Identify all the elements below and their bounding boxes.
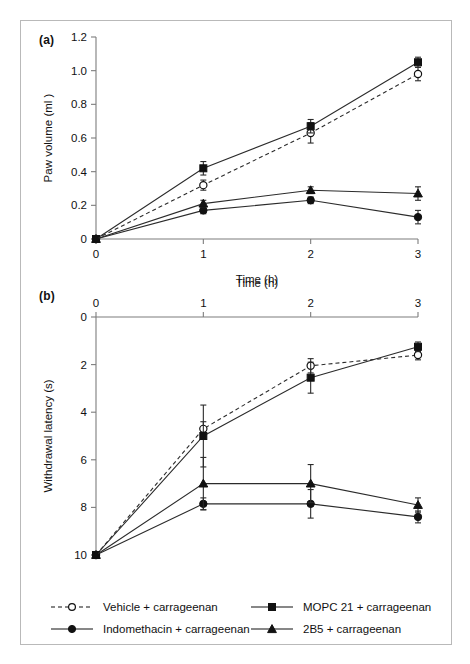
legend-label-vehicle: Vehicle + carrageenan: [103, 601, 218, 613]
withdrawal-latency-chart: 01230246810Withdrawal latency (s)Time (h…: [21, 279, 451, 579]
x-tick-label: 2: [307, 297, 313, 309]
legend-item-2b5: 2B5 + carrageenan: [249, 618, 449, 640]
series-path: [96, 200, 418, 239]
series-path: [96, 74, 418, 239]
legend-label-indomethacin: Indomethacin + carrageenan: [103, 623, 250, 635]
paw-volume-chart: 012300.20.40.60.81.01.2Paw volume (ml )T…: [21, 21, 451, 321]
legend-label-mopc21: MOPC 21 + carrageenan: [303, 601, 431, 613]
chart-panel-b: (b) 01230246810Withdrawal latency (s)Tim…: [21, 279, 451, 579]
y-tick-label: 1.2: [71, 31, 87, 43]
y-axis-title: Paw volume (ml ): [42, 93, 54, 182]
y-tick-label: 0.4: [71, 166, 88, 178]
x-tick-label: 0: [93, 248, 99, 260]
series-path: [96, 62, 418, 239]
x-tick-label: 3: [415, 297, 421, 309]
series-filled-circle: [92, 197, 421, 243]
y-tick-label: 0.8: [71, 98, 87, 110]
legend-item-vehicle: Vehicle + carrageenan: [49, 596, 249, 618]
data-point-open-circle: [200, 182, 207, 189]
series-path: [96, 347, 418, 555]
data-point-filled-square: [200, 165, 207, 172]
data-point-filled-circle: [414, 213, 421, 220]
series-path: [96, 355, 418, 555]
x-axis-title: Time (h): [236, 279, 279, 289]
legend-marker-filled-triangle-solid: [249, 620, 295, 638]
data-point-filled-circle: [414, 513, 421, 520]
data-point-filled-square: [415, 343, 422, 350]
y-tick-label: 6: [81, 454, 87, 466]
data-point-filled-circle: [307, 197, 314, 204]
y-axis-title: Withdrawal latency (s): [42, 379, 54, 492]
data-point-open-circle: [414, 351, 421, 358]
legend-item-indomethacin: Indomethacin + carrageenan: [49, 618, 249, 640]
legend-item-mopc21: MOPC 21 + carrageenan: [249, 596, 449, 618]
panel-b-tag: (b): [39, 289, 55, 303]
series-open-circle: [92, 350, 421, 558]
series-path: [96, 484, 418, 555]
series-path: [96, 190, 418, 239]
series-filled-square: [93, 342, 422, 559]
y-tick-label: 0.2: [71, 199, 87, 211]
data-point-filled-triangle: [306, 186, 315, 194]
data-point-filled-square: [307, 123, 314, 130]
y-tick-label: 0.6: [71, 132, 87, 144]
y-tick-label: 10: [74, 549, 87, 561]
figure-legend: Vehicle + carrageenan Indomethacin + car…: [31, 594, 443, 642]
data-point-filled-square: [415, 59, 422, 66]
chart-panel-a: (a) 012300.20.40.60.81.01.2Paw volume (m…: [21, 21, 451, 321]
y-tick-label: 0: [81, 311, 87, 323]
x-tick-label: 3: [415, 248, 421, 260]
legend-marker-open-circle-dashed: [49, 598, 95, 616]
y-tick-label: 4: [81, 406, 88, 418]
x-tick-label: 0: [93, 297, 99, 309]
series-filled-triangle: [92, 186, 423, 243]
legend-marker-filled-square-solid: [249, 598, 295, 616]
y-tick-label: 1.0: [71, 65, 87, 77]
data-point-open-circle: [414, 70, 421, 77]
legend-label-2b5: 2B5 + carrageenan: [303, 623, 401, 635]
y-tick-label: 2: [81, 359, 87, 371]
x-tick-label: 1: [200, 248, 206, 260]
series-filled-triangle: [92, 457, 423, 558]
x-tick-label: 2: [307, 248, 313, 260]
panel-a-tag: (a): [39, 33, 54, 47]
figure-frame: (a) 012300.20.40.60.81.01.2Paw volume (m…: [20, 20, 452, 645]
series-filled-square: [93, 57, 422, 242]
series-path: [96, 504, 418, 555]
data-point-filled-square: [200, 433, 207, 440]
data-point-filled-square: [307, 374, 314, 381]
series-open-circle: [92, 67, 421, 242]
y-tick-label: 0: [81, 233, 87, 245]
data-point-filled-circle: [200, 207, 207, 214]
y-tick-label: 8: [81, 501, 87, 513]
legend-marker-filled-circle-solid: [49, 620, 95, 638]
x-tick-label: 1: [200, 297, 206, 309]
